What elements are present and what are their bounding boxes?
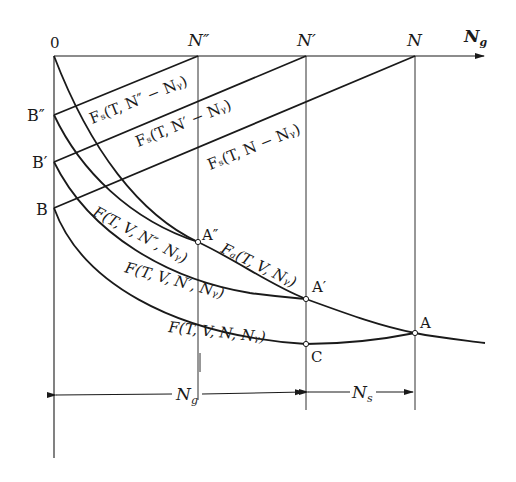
tick-label-b2: B″	[27, 106, 45, 125]
origin-label: 0	[50, 34, 60, 52]
tick-label-b: B	[36, 200, 48, 219]
tick-label-n2: N″	[187, 30, 210, 50]
dim-ng-label: Ng	[175, 384, 198, 407]
label-a2: A″	[201, 226, 219, 244]
label-a: A	[419, 314, 431, 332]
dim-ng-right	[202, 392, 304, 394]
label-f-n: F(T, V, N, Nᵧ)	[167, 318, 267, 346]
tick-label-n: N	[406, 30, 423, 50]
label-fa: Fₐ(T, V, Nᵧ)	[217, 239, 299, 291]
line-fs-n	[54, 56, 415, 208]
phase-equilibrium-diagram: 0 Ng N″ N′ N B″ B′ B Fₛ(T, N″ − Nᵧ) Fₛ(T…	[0, 0, 516, 482]
point-c	[303, 341, 308, 346]
label-c: C	[311, 348, 322, 366]
x-axis-label: Ng	[463, 26, 488, 49]
point-a1	[303, 296, 308, 301]
label-a1: A′	[311, 278, 327, 296]
point-a	[412, 330, 417, 335]
tick-label-n1: N′	[296, 30, 316, 50]
label-f-n2: F(T, V, N″, Nᵧ)	[89, 202, 190, 267]
curve-f-n	[54, 208, 415, 344]
label-fs-n: Fₛ(T, N − Nᵧ)	[205, 120, 303, 174]
label-f-n1: F(T, V, N′, Nᵧ)	[122, 258, 226, 302]
tick-label-b1: B′	[32, 153, 48, 172]
dim-ng-left	[56, 394, 172, 395]
dim-ns-label: Ns	[351, 382, 373, 405]
point-a2	[195, 239, 200, 244]
